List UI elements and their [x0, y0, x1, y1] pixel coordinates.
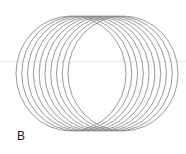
ellipse-ring	[68, 16, 178, 131]
ellipse-ring	[22, 16, 132, 131]
ellipse-ring	[28, 16, 138, 131]
ellipse-ring	[56, 16, 166, 131]
ellipse-ring	[45, 16, 155, 131]
ellipse-ring	[16, 16, 126, 131]
overlapping-ellipses-figure	[0, 0, 186, 154]
ellipse-ring	[51, 16, 161, 131]
panel-label: B	[17, 129, 25, 143]
ellipse-ring	[33, 16, 143, 131]
ellipse-ring	[62, 16, 172, 131]
ellipse-ring	[39, 16, 149, 131]
